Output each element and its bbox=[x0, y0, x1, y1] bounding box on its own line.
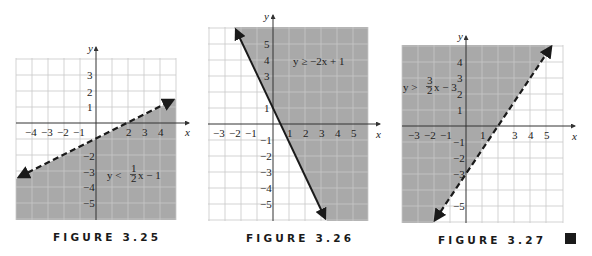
svg-text:2: 2 bbox=[131, 172, 137, 184]
svg-text:3: 3 bbox=[457, 72, 463, 84]
figure-caption: FIGURE 3.27 bbox=[438, 234, 546, 246]
figure-caption: FIGURE 3.25 bbox=[53, 231, 161, 243]
figure-3-26-plot bbox=[208, 15, 380, 221]
svg-text:−5: −5 bbox=[83, 197, 95, 209]
svg-text:3: 3 bbox=[512, 129, 518, 141]
svg-text:−4: −4 bbox=[25, 126, 37, 138]
svg-text:2: 2 bbox=[303, 127, 309, 139]
inequality-label: y ≥ −2x + 1 bbox=[293, 55, 344, 67]
svg-text:5: 5 bbox=[264, 38, 270, 50]
svg-text:−5: −5 bbox=[260, 198, 272, 210]
svg-text:−5: −5 bbox=[453, 200, 465, 212]
svg-text:4: 4 bbox=[457, 56, 463, 68]
svg-text:−2: −2 bbox=[83, 150, 95, 162]
svg-text:−2: −2 bbox=[424, 129, 436, 141]
svg-text:−3: −3 bbox=[213, 127, 225, 139]
svg-text:x − 3: x − 3 bbox=[434, 81, 457, 93]
figure-caption: FIGURE 3.26 bbox=[246, 232, 354, 244]
svg-text:y <: y < bbox=[107, 169, 121, 181]
svg-text:−2: −2 bbox=[229, 127, 241, 139]
svg-text:y >: y > bbox=[403, 81, 417, 93]
svg-text:−1: −1 bbox=[73, 126, 85, 138]
svg-text:−4: −4 bbox=[83, 181, 95, 193]
svg-text:2: 2 bbox=[457, 88, 463, 100]
x-tick-labels: −4 −3 −2 −1 2 3 4 bbox=[25, 126, 164, 138]
svg-text:−1: −1 bbox=[440, 129, 452, 141]
svg-text:−4: −4 bbox=[260, 182, 272, 194]
svg-text:3: 3 bbox=[264, 70, 270, 82]
svg-text:−1: −1 bbox=[245, 127, 257, 139]
svg-text:4: 4 bbox=[335, 127, 341, 139]
svg-text:5: 5 bbox=[544, 129, 550, 141]
svg-text:3: 3 bbox=[87, 69, 93, 81]
svg-text:−1: −1 bbox=[260, 134, 272, 146]
x-axis-label: x bbox=[375, 128, 381, 140]
svg-text:5: 5 bbox=[351, 127, 357, 139]
svg-text:−3: −3 bbox=[453, 168, 465, 180]
svg-text:−2: −2 bbox=[57, 126, 69, 138]
svg-text:−2: −2 bbox=[260, 150, 272, 162]
svg-text:3: 3 bbox=[319, 127, 325, 139]
x-axis-label: x bbox=[184, 126, 190, 138]
svg-text:2: 2 bbox=[126, 126, 132, 138]
svg-text:−3: −3 bbox=[83, 166, 95, 178]
y-axis-label: y bbox=[457, 30, 463, 42]
svg-text:x − 1: x − 1 bbox=[138, 169, 161, 181]
end-of-example-square-icon bbox=[565, 233, 576, 244]
svg-text:4: 4 bbox=[528, 129, 534, 141]
svg-text:1: 1 bbox=[287, 127, 293, 139]
svg-text:−2: −2 bbox=[453, 152, 465, 164]
svg-text:1: 1 bbox=[264, 102, 270, 114]
svg-text:−3: −3 bbox=[260, 166, 272, 178]
y-axis-label: y bbox=[263, 10, 269, 22]
x-axis-label: x bbox=[571, 130, 577, 142]
svg-text:−3: −3 bbox=[41, 126, 53, 138]
svg-text:−1: −1 bbox=[453, 136, 465, 148]
svg-text:1: 1 bbox=[87, 101, 93, 113]
svg-text:2: 2 bbox=[427, 84, 433, 96]
svg-text:3: 3 bbox=[142, 126, 148, 138]
svg-text:4: 4 bbox=[158, 126, 164, 138]
y-axis-label: y bbox=[87, 42, 93, 54]
svg-text:1: 1 bbox=[457, 104, 463, 116]
svg-text:1: 1 bbox=[480, 129, 486, 141]
svg-text:2: 2 bbox=[87, 86, 93, 98]
svg-text:−3: −3 bbox=[408, 129, 420, 141]
svg-text:4: 4 bbox=[264, 54, 270, 66]
